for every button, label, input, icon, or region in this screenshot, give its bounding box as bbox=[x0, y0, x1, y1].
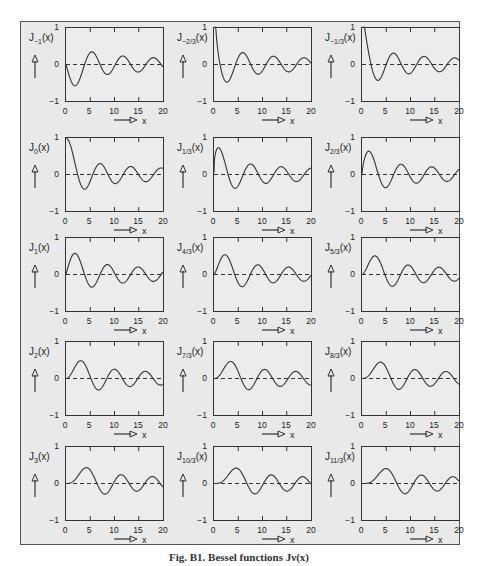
bessel-curve bbox=[214, 361, 311, 389]
y-tick-1: 1 bbox=[345, 232, 355, 242]
x-axis-name: x bbox=[290, 116, 295, 126]
y-tick-1: 1 bbox=[49, 336, 59, 346]
y-axis-label: J1(x) bbox=[29, 242, 50, 255]
y-tick-1: 1 bbox=[345, 22, 355, 32]
bessel-curve bbox=[362, 151, 459, 188]
x-tick-0: 0 bbox=[206, 525, 220, 535]
x-tick-0: 0 bbox=[206, 316, 220, 326]
curve-svg bbox=[214, 138, 311, 211]
y-tick-minus1: −1 bbox=[197, 515, 207, 525]
bessel-panel-J4_3: J4/3(x) 1 0 −1 0 5 10 15 20 x bbox=[169, 232, 319, 336]
plot-area bbox=[213, 341, 312, 416]
y-axis-label: J2(x) bbox=[29, 346, 50, 359]
up-arrow-icon bbox=[31, 368, 39, 392]
x-tick-10: 10 bbox=[403, 216, 417, 226]
curve-svg bbox=[362, 447, 459, 520]
bessel-panel-J_1: J−1(x) 1 0 −1 0 5 10 15 20 x bbox=[21, 22, 171, 126]
y-tick-minus1: −1 bbox=[345, 206, 355, 216]
argument-text: (x) bbox=[38, 346, 50, 357]
bessel-panel-J7_3: J7/3(x) 1 0 −1 0 5 10 15 20 x bbox=[169, 336, 319, 440]
bessel-panel-J8_3: J8/3(x) 1 0 −1 0 5 10 15 20 x bbox=[317, 336, 467, 440]
bessel-curve bbox=[362, 256, 459, 286]
y-tick-minus1: −1 bbox=[345, 306, 355, 316]
argument-text: (x) bbox=[192, 346, 204, 357]
up-arrow-icon bbox=[327, 473, 335, 497]
y-tick-0: 0 bbox=[49, 59, 59, 69]
y-tick-1: 1 bbox=[49, 22, 59, 32]
up-arrow-icon bbox=[327, 368, 335, 392]
right-arrow-icon bbox=[114, 326, 138, 334]
y-axis-label: J2/3(x) bbox=[325, 142, 351, 155]
argument-text: (x) bbox=[192, 242, 204, 253]
up-arrow-icon bbox=[327, 164, 335, 188]
x-tick-20: 20 bbox=[452, 420, 466, 430]
curve-svg bbox=[214, 238, 311, 311]
x-axis-name: x bbox=[438, 326, 443, 336]
curve-svg bbox=[214, 342, 311, 415]
bessel-panel-J_2_3: J−2/3(x) 1 0 −1 0 5 10 15 20 x bbox=[169, 22, 319, 126]
x-tick-20: 20 bbox=[452, 316, 466, 326]
x-tick-15: 15 bbox=[279, 216, 293, 226]
up-arrow-icon bbox=[327, 54, 335, 78]
x-tick-10: 10 bbox=[403, 525, 417, 535]
curve-svg bbox=[66, 447, 163, 520]
plot-area bbox=[213, 446, 312, 521]
x-tick-15: 15 bbox=[427, 106, 441, 116]
x-tick-5: 5 bbox=[230, 106, 244, 116]
up-arrow-icon bbox=[31, 473, 39, 497]
curve-svg bbox=[362, 138, 459, 211]
bessel-panel-J5_3: J5/3(x) 1 0 −1 0 5 10 15 20 x bbox=[317, 232, 467, 336]
x-tick-20: 20 bbox=[156, 216, 170, 226]
bessel-panel-J2_3: J2/3(x) 1 0 −1 0 5 10 15 20 x bbox=[317, 132, 467, 236]
plot-area bbox=[65, 137, 164, 212]
right-arrow-icon bbox=[262, 430, 286, 438]
curve-svg bbox=[66, 138, 163, 211]
figure-frame: J−1(x) 1 0 −1 0 5 10 15 20 x J−2/3(x) bbox=[20, 21, 460, 545]
x-tick-0: 0 bbox=[58, 420, 72, 430]
y-tick-1: 1 bbox=[197, 132, 207, 142]
order-subscript: −1 bbox=[34, 38, 42, 45]
x-tick-10: 10 bbox=[107, 106, 121, 116]
right-arrow-icon bbox=[410, 116, 434, 124]
x-tick-15: 15 bbox=[131, 216, 145, 226]
plot-area bbox=[361, 341, 460, 416]
x-tick-0: 0 bbox=[354, 316, 368, 326]
x-tick-5: 5 bbox=[230, 316, 244, 326]
plot-area bbox=[65, 237, 164, 312]
y-tick-minus1: −1 bbox=[345, 410, 355, 420]
x-tick-10: 10 bbox=[255, 525, 269, 535]
y-tick-1: 1 bbox=[345, 132, 355, 142]
x-tick-0: 0 bbox=[354, 106, 368, 116]
bessel-curve bbox=[66, 361, 163, 390]
y-axis-label: J1/3(x) bbox=[177, 142, 203, 155]
bessel-curve bbox=[66, 138, 163, 189]
curve-svg bbox=[214, 28, 311, 101]
x-tick-20: 20 bbox=[304, 316, 318, 326]
y-axis-label: J−1(x) bbox=[29, 32, 54, 45]
y-tick-0: 0 bbox=[49, 478, 59, 488]
y-axis-label: J8/3(x) bbox=[325, 346, 351, 359]
argument-text: (x) bbox=[340, 142, 352, 153]
x-tick-20: 20 bbox=[452, 525, 466, 535]
y-tick-0: 0 bbox=[197, 478, 207, 488]
x-tick-20: 20 bbox=[156, 106, 170, 116]
plot-area bbox=[361, 237, 460, 312]
x-tick-15: 15 bbox=[131, 420, 145, 430]
up-arrow-icon bbox=[179, 473, 187, 497]
x-tick-5: 5 bbox=[230, 216, 244, 226]
argument-text: (x) bbox=[340, 242, 352, 253]
figure-caption: Fig. B1. Bessel functions Jν(x) bbox=[0, 551, 478, 563]
x-axis-name: x bbox=[142, 116, 147, 126]
y-tick-1: 1 bbox=[197, 232, 207, 242]
up-arrow-icon bbox=[179, 264, 187, 288]
x-tick-5: 5 bbox=[378, 106, 392, 116]
x-tick-0: 0 bbox=[58, 525, 72, 535]
x-tick-0: 0 bbox=[58, 106, 72, 116]
y-tick-minus1: −1 bbox=[49, 206, 59, 216]
bessel-panel-J10_3: J10/3(x) 1 0 −1 0 5 10 15 20 x bbox=[169, 441, 319, 545]
up-arrow-icon bbox=[179, 54, 187, 78]
y-tick-0: 0 bbox=[345, 59, 355, 69]
x-tick-5: 5 bbox=[230, 420, 244, 430]
x-axis-name: x bbox=[142, 430, 147, 440]
y-tick-minus1: −1 bbox=[197, 410, 207, 420]
